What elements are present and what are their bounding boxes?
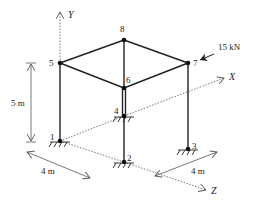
node-4	[122, 114, 127, 119]
y-axis-label: Y	[68, 9, 75, 20]
width-x-dimension	[155, 152, 217, 176]
beam-6-7	[124, 63, 188, 88]
load-label: 15 kN	[218, 42, 241, 52]
width-x-dimension-label: 4 m	[191, 166, 205, 176]
height-dimension	[26, 63, 36, 142]
load-arrow	[200, 54, 214, 60]
node-6	[122, 86, 127, 91]
z-axis	[60, 141, 206, 190]
x-axis-label: X	[228, 71, 236, 82]
z-axis-label: Z	[211, 185, 217, 196]
frame-diagram: Y X Z	[0, 0, 255, 203]
width-z-dimension	[27, 152, 90, 178]
node-2	[122, 160, 127, 165]
node-5	[58, 61, 63, 66]
width-z-dimension-label: 4 m	[41, 166, 55, 176]
x-axis	[60, 78, 224, 141]
node-label-6: 6	[126, 75, 131, 85]
node-label-2: 2	[127, 153, 132, 163]
height-dimension-label: 5 m	[11, 98, 25, 108]
node-3	[186, 147, 191, 152]
node-label-8: 8	[120, 24, 125, 34]
beam-8-7	[124, 40, 188, 63]
node-7	[186, 61, 191, 66]
beam-5-8	[60, 40, 124, 63]
node-label-4: 4	[114, 106, 119, 116]
beam-5-6	[60, 63, 124, 88]
node-label-3: 3	[192, 141, 197, 151]
node-label-7: 7	[193, 58, 198, 68]
node-label-1: 1	[50, 132, 55, 142]
node-8	[122, 38, 127, 43]
node-label-5: 5	[49, 58, 54, 68]
node-1	[58, 139, 63, 144]
